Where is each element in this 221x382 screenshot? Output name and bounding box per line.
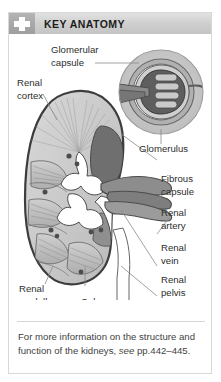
reference-text-after: pp.442–445. bbox=[137, 345, 190, 356]
section-divider bbox=[17, 321, 205, 322]
kidney-cross-section-diagram: Glomerular capsule Renal cortex Glomerul… bbox=[9, 34, 212, 298]
label-glomerulus: Glomerulus bbox=[139, 143, 188, 154]
label-renal-medulla-line1: Renal bbox=[19, 283, 44, 294]
label-calyx: Calyx bbox=[81, 296, 105, 300]
label-glomerular-capsule-line2: capsule bbox=[51, 57, 84, 68]
reference-note: For more information on the structure an… bbox=[18, 330, 208, 357]
label-renal-pelvis-line2: pelvis bbox=[161, 287, 186, 298]
label-renal-artery-line2: artery bbox=[161, 220, 186, 231]
label-fibrous-capsule-line2: capsule bbox=[161, 186, 194, 197]
label-renal-pelvis-line1: Renal bbox=[161, 274, 186, 285]
cross-horizontal-bar bbox=[14, 21, 30, 27]
medical-cross-icon bbox=[9, 13, 35, 34]
ureter-shape bbox=[113, 228, 130, 300]
label-renal-vein-line2: vein bbox=[161, 255, 179, 266]
label-renal-medulla-line2: medulla bbox=[19, 296, 53, 300]
key-anatomy-card: KEY ANATOMY bbox=[8, 12, 212, 374]
label-glomerular-capsule-line1: Glomerular bbox=[51, 44, 99, 55]
card-header: KEY ANATOMY bbox=[9, 13, 211, 34]
reference-see-italic: see bbox=[119, 345, 134, 356]
label-renal-artery-line1: Renal bbox=[161, 207, 186, 218]
page-title: KEY ANATOMY bbox=[44, 18, 125, 30]
label-renal-vein-line1: Renal bbox=[161, 242, 186, 253]
label-renal-cortex-line1: Renal bbox=[17, 77, 42, 88]
label-renal-cortex-line2: cortex bbox=[17, 90, 43, 101]
glomerulus-inset bbox=[119, 50, 209, 134]
label-fibrous-capsule-line1: Fibrous bbox=[161, 173, 193, 184]
